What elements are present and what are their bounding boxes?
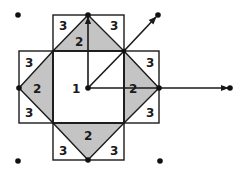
left-triangle-label: 2 — [33, 82, 41, 96]
top-triangle-label: 2 — [75, 35, 83, 49]
bottom-triangle-label: 2 — [84, 129, 92, 143]
right-top-label: 3 — [146, 56, 154, 70]
right-bottom-label: 3 — [146, 106, 154, 120]
far-right-point — [227, 85, 233, 91]
bottom-left-label: 3 — [59, 144, 67, 158]
diagram-canvas: 1 3 3 2 3 3 2 3 3 2 3 3 2 — [0, 0, 242, 174]
center-point — [85, 85, 91, 91]
top-right-corner-point — [122, 49, 126, 53]
left-point — [16, 85, 22, 91]
upper-right-point — [155, 12, 161, 18]
top-left-label: 3 — [59, 19, 67, 33]
diagonal-arrow — [124, 17, 156, 51]
bottom-left-corner-point — [15, 158, 21, 164]
bottom-point — [85, 157, 91, 163]
bottom-right-label: 3 — [110, 144, 118, 158]
top-left-corner-point — [15, 12, 21, 18]
right-triangle-label: 2 — [129, 82, 137, 96]
top-point — [85, 12, 91, 18]
top-right-label: 3 — [110, 19, 118, 33]
bottom-right-corner-point — [157, 158, 163, 164]
center-diagonal-line — [88, 51, 124, 88]
right-point — [156, 85, 162, 91]
left-bottom-label: 3 — [25, 106, 33, 120]
left-top-label: 3 — [25, 56, 33, 70]
center-label: 1 — [72, 82, 80, 96]
